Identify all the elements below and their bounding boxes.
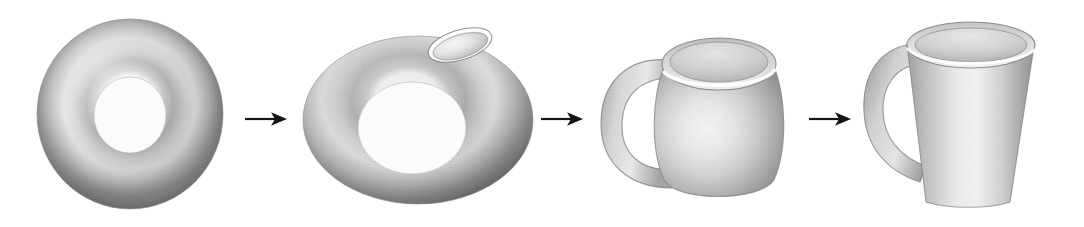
- cavity-texture: [670, 42, 768, 82]
- arrow-rounded-mug-to-coffee-mug: [808, 105, 852, 135]
- torus-hole: [94, 77, 166, 153]
- step-rounded-mug: [592, 22, 800, 227]
- coffee-mug-rim: [907, 22, 1035, 68]
- figure-stage: [0, 0, 1084, 227]
- cavity-texture: [915, 28, 1027, 62]
- step-coffee-mug: [858, 16, 1048, 227]
- arrow-dimpled-to-rounded-mug: [540, 105, 584, 135]
- topology-deformation-figure: Topological deformation of a torus into …: [0, 0, 1084, 227]
- arrow-torus-to-dimpled: [244, 105, 288, 135]
- step-torus: [30, 14, 230, 227]
- tilted-torus-hole: [358, 82, 466, 174]
- step-torus-with-depression: [300, 24, 536, 227]
- rounded-mug-rim: [662, 38, 776, 90]
